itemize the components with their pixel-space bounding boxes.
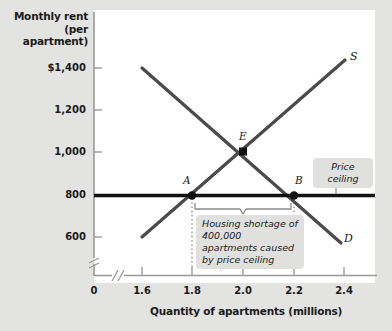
y-axis-title-line-2: (per apartment): [2, 23, 88, 48]
point-label-a: A: [183, 174, 191, 186]
y-axis-title-line-1: Monthly rent: [2, 10, 88, 23]
price-ceiling-callout: Price ceiling: [313, 158, 373, 188]
supply-demand-figure: Monthly rent (per apartment) Quantity of…: [0, 0, 392, 331]
y-tick-label-600: 600: [24, 231, 86, 242]
point-marker-a: [188, 191, 196, 199]
shortage-brace: [195, 203, 291, 214]
point-marker-e: [239, 148, 247, 156]
point-label-e: E: [239, 130, 247, 142]
y-tick-label-1000: 1,000: [24, 146, 86, 157]
x-axis-break-mark-1: [112, 270, 118, 281]
x-tick-label-2-4: 2.4: [324, 285, 364, 296]
y-tick-label-1200: 1,200: [24, 104, 86, 115]
point-marker-b: [290, 191, 298, 199]
x-axis-title: Quantity of apartments (millions): [150, 305, 388, 318]
x-tick-label-1-6: 1.6: [122, 285, 162, 296]
supply-curve-label: S: [350, 50, 358, 63]
x-tick-label-2-2: 2.2: [274, 285, 314, 296]
origin-label: 0: [74, 285, 114, 296]
point-label-b: B: [295, 174, 303, 186]
y-tick-label-1400: $1,400: [24, 62, 86, 73]
demand-curve-label: D: [344, 232, 353, 245]
y-axis-break-mark-1: [89, 258, 99, 263]
x-axis-break-mark-2: [118, 270, 124, 281]
x-tick-label-2-0: 2.0: [223, 285, 263, 296]
y-tick-label-800: 800: [24, 189, 86, 200]
x-tick-label-1-8: 1.8: [172, 285, 212, 296]
y-axis-title: Monthly rent (per apartment): [2, 10, 88, 48]
housing-shortage-callout: Housing shortage of 400,000 apartments c…: [196, 215, 304, 269]
